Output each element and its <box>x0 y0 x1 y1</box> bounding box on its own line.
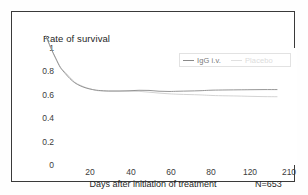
figure-container: Rate of survival 1 0.8 0.6 0.4 0.2 0 20 … <box>0 0 308 195</box>
series-line-placebo <box>46 36 277 97</box>
series-line-igg-i-v <box>46 36 277 91</box>
survival-curves <box>0 0 308 195</box>
